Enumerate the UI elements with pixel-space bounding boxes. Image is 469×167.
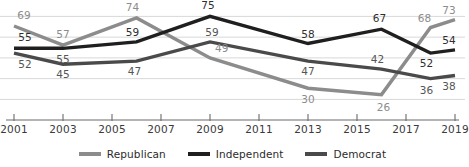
x-axis-tick-label: 2017 <box>392 123 420 135</box>
data-label: 52 <box>18 58 32 70</box>
data-label: 75 <box>201 0 215 11</box>
data-label: 74 <box>126 1 140 13</box>
x-axis-tick-label: 2015 <box>343 123 371 135</box>
data-label: 45 <box>56 68 70 80</box>
data-label: 59 <box>205 26 219 38</box>
data-label: 68 <box>418 12 432 24</box>
x-axis-tick-label: 2003 <box>49 123 77 135</box>
data-label: 30 <box>301 93 315 105</box>
x-axis-tick-label: 2005 <box>98 123 126 135</box>
data-label: 49 <box>215 42 229 54</box>
data-label: 36 <box>420 84 434 96</box>
x-axis-tick-label: 2011 <box>245 123 273 135</box>
legend-label: Democrat <box>333 148 386 160</box>
data-label: 47 <box>128 65 142 77</box>
data-label: 54 <box>442 34 456 46</box>
x-axis-tick-label: 2019 <box>441 123 469 135</box>
data-label: 69 <box>17 9 31 21</box>
plot-area: 6957744930266873555975586752545255454759… <box>0 0 465 112</box>
data-label: 52 <box>420 57 434 69</box>
data-label: 38 <box>442 80 456 92</box>
data-label: 59 <box>126 26 140 38</box>
data-label: 73 <box>442 4 456 16</box>
series-line-republican <box>14 18 455 95</box>
legend-item-democrat[interactable]: Democrat <box>305 148 386 160</box>
legend-swatch-icon <box>305 152 327 156</box>
data-label: 26 <box>377 101 391 113</box>
data-label: 42 <box>371 53 385 65</box>
x-axis-tick-label: 2001 <box>0 123 28 135</box>
data-label: 55 <box>18 31 32 43</box>
x-axis-tick-label: 2009 <box>196 123 224 135</box>
x-axis: 2001200320052007200920112013201520172019 <box>0 112 465 138</box>
x-axis-tick-label: 2007 <box>147 123 175 135</box>
data-label: 55 <box>56 53 70 65</box>
legend-label: Republican <box>107 148 166 160</box>
legend-item-republican[interactable]: Republican <box>79 148 166 160</box>
data-label: 47 <box>301 65 315 77</box>
legend-swatch-icon <box>79 152 101 156</box>
legend-label: Independent <box>216 148 284 160</box>
legend-item-independent[interactable]: Independent <box>188 148 284 160</box>
data-label: 57 <box>56 28 70 40</box>
x-axis-tick-label: 2013 <box>294 123 322 135</box>
data-label: 58 <box>301 28 315 40</box>
data-label: 67 <box>373 12 387 24</box>
legend-swatch-icon <box>188 152 210 156</box>
chart-legend: RepublicanIndependentDemocrat <box>0 141 465 167</box>
